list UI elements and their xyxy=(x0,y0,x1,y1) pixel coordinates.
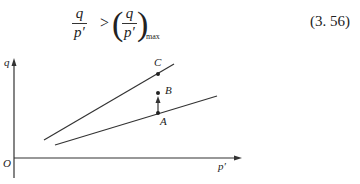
point-b xyxy=(156,91,160,95)
point-c-label: C xyxy=(154,56,162,68)
y-axis-label: q xyxy=(4,56,10,68)
point-c xyxy=(156,72,160,76)
lhs-fraction: q p′ xyxy=(72,6,87,40)
origin-label: O xyxy=(3,157,11,169)
y-axis xyxy=(12,58,17,178)
x-axis-label: p′ xyxy=(217,160,227,172)
rhs-fraction: q p′ xyxy=(122,6,137,40)
lower-line xyxy=(55,96,217,145)
point-b-label: B xyxy=(165,84,172,96)
x-axis xyxy=(14,156,242,161)
equation-block: q p′ > ( q p′ ) max (3. 56) xyxy=(0,0,360,52)
stress-path-figure: q O p′ C B A xyxy=(0,50,260,184)
rhs-numerator: q xyxy=(126,6,134,21)
point-a-label: A xyxy=(159,115,167,127)
max-subscript: max xyxy=(146,32,160,41)
equation-number: (3. 56) xyxy=(310,13,350,30)
lhs-denominator: p′ xyxy=(74,25,85,40)
greater-than-operator: > xyxy=(100,14,109,32)
rhs-denominator: p′ xyxy=(124,25,135,40)
lhs-numerator: q xyxy=(76,6,84,21)
arrow-a-to-b xyxy=(156,96,161,113)
